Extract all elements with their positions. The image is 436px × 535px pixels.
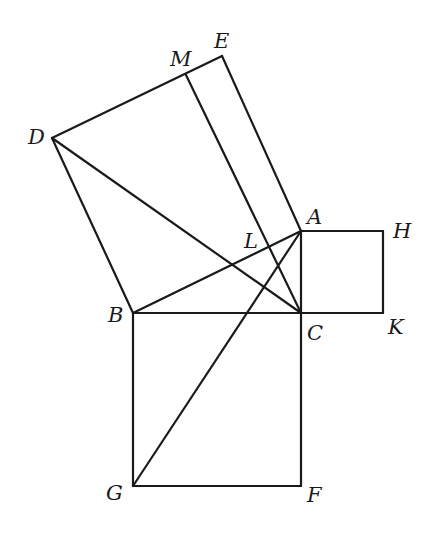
point-label-c: C: [307, 321, 323, 345]
segment-ea: [222, 56, 301, 231]
geometry-diagram: EMDAHLBCKGF: [0, 0, 436, 535]
segment-ba: [133, 231, 301, 313]
point-label-g: G: [106, 481, 123, 505]
diagram-labels: EMDAHLBCKGF: [27, 29, 412, 507]
point-label-h: H: [392, 219, 412, 243]
point-label-m: M: [169, 47, 192, 71]
segment-db: [52, 138, 133, 313]
point-label-d: D: [27, 125, 45, 149]
segment-ga: [133, 231, 301, 486]
point-label-e: E: [213, 29, 229, 53]
point-label-a: A: [305, 205, 322, 229]
point-label-b: B: [107, 303, 123, 327]
point-label-k: K: [387, 315, 405, 339]
point-label-l: L: [243, 229, 258, 253]
point-label-f: F: [306, 483, 323, 507]
diagram-segments: [52, 56, 383, 486]
